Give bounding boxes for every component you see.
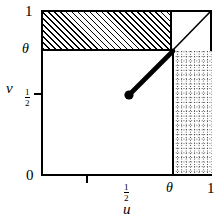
y-axis-label-half: 1 2: [25, 88, 30, 108]
y-axis-label-zero: 0: [26, 168, 34, 183]
x-axis-label-theta: θ: [166, 181, 173, 195]
y-axis-tick-half: [34, 93, 41, 95]
x-axis-label-one: 1: [207, 181, 215, 196]
y-axis-title: v: [6, 81, 13, 96]
y-axis-label-theta: θ: [22, 42, 29, 56]
y-axis-label-one: 1: [25, 4, 33, 19]
x-axis-title: u: [123, 202, 131, 217]
figure-canvas: 1 θ 1 2 0 θ 1 1 2 v u: [0, 0, 221, 219]
plot-area: [41, 10, 212, 176]
thick-segment-stroke: [129, 51, 173, 95]
y-half-denominator: 2: [25, 97, 30, 108]
y-half-numerator: 1: [25, 88, 30, 97]
x-half-numerator: 1: [124, 183, 129, 192]
thick-segment-line: [43, 12, 210, 174]
x-axis-label-half: 1 2: [124, 183, 129, 203]
x-axis-tick-half: [86, 176, 88, 183]
segment-endpoint-dot: [124, 90, 133, 99]
